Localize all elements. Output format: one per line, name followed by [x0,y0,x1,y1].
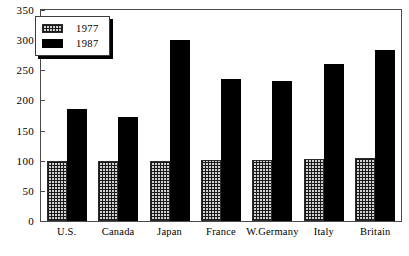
bar-1987-Japan [170,40,190,221]
bar-group [201,10,241,221]
y-tick-label: 150 [17,125,34,136]
bar-1987-France [221,79,241,221]
x-tick-label-W.Germany: W.Germany [246,226,298,238]
y-axis: 050100150200250300350 [0,0,40,256]
x-tick-label-Canada: Canada [102,226,135,238]
bar-1987-Canada [118,117,138,221]
bar-group [355,10,395,221]
bar-1987-U.S. [67,109,87,221]
bar-1977-Italy [304,159,324,221]
bar-1987-W.Germany [272,81,292,221]
y-tick-label: 350 [17,5,34,16]
legend-entry-1977: 1977 [42,21,99,36]
x-tick-label-Japan: Japan [157,226,182,238]
legend: 1977 1987 [35,16,110,56]
y-tick-label: 100 [17,155,34,166]
bar-1977-France [201,160,221,221]
y-tick-label: 250 [17,65,34,76]
legend-swatch-1987 [42,39,63,48]
bar-1977-Canada [98,161,118,221]
y-tick-label: 50 [22,185,34,196]
legend-swatch-1977 [42,24,63,33]
bar-1977-Britain [355,158,375,221]
bar-group [304,10,344,221]
bar-1977-W.Germany [252,160,272,221]
bar-1977-Japan [150,161,170,221]
x-tick-label-Italy: Italy [314,226,334,238]
y-tick-label: 200 [17,95,34,106]
bar-1987-Britain [375,50,395,221]
x-tick-label-U.S.: U.S. [57,226,76,238]
legend-label-1987: 1987 [76,38,99,49]
x-axis: U.S.CanadaJapanFranceW.GermanyItalyBrita… [41,226,401,248]
bar-1977-U.S. [47,161,67,221]
y-tick-label: 0 [28,216,34,227]
bar-group [150,10,190,221]
x-tick-label-France: France [206,226,236,238]
legend-entry-1987: 1987 [42,36,99,51]
bar-group [252,10,292,221]
y-tick-label: 300 [17,35,34,46]
legend-label-1977: 1977 [76,23,99,34]
x-tick-label-Britain: Britain [360,226,391,238]
bar-chart: 050100150200250300350 U.S.CanadaJapanFra… [0,0,409,256]
bar-1987-Italy [324,64,344,221]
